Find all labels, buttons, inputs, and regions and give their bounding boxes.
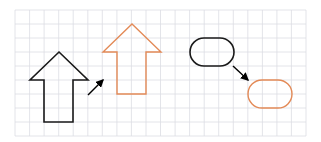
transform-connector-arrow-2 xyxy=(233,66,248,80)
background-grid xyxy=(15,10,306,136)
diagram-canvas xyxy=(0,0,321,142)
target-up-arrow-shape[interactable] xyxy=(103,24,161,94)
diagram-svg xyxy=(0,0,321,142)
transform-connector-arrow-1 xyxy=(88,80,103,95)
